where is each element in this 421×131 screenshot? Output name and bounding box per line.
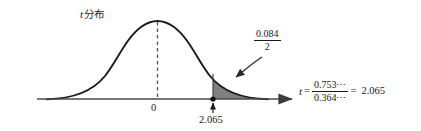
equation-equals-sign-2: = — [349, 86, 357, 97]
t-distribution-figure: t分布 0 2.065 0.084 2 t = 0.753⋯ 0.364⋯ = … — [0, 0, 421, 131]
distribution-label-text: 分布 — [84, 8, 104, 20]
equation-fraction: 0.753⋯ 0.364⋯ — [312, 80, 349, 103]
figure-canvas — [0, 0, 421, 131]
equation-equals-sign: = — [303, 86, 311, 97]
equation-denominator: 0.364⋯ — [312, 93, 349, 103]
equation-result: 2.065 — [357, 86, 385, 97]
callout-arrow-icon — [236, 57, 262, 77]
data-point-dot-icon — [210, 96, 215, 101]
axis-tick-label-critical: 2.065 — [199, 115, 223, 126]
tail-area-denominator: 2 — [254, 42, 281, 52]
axis-tick-label-zero: 0 — [151, 103, 156, 114]
equation-numerator: 0.753⋯ — [312, 80, 349, 90]
tail-area-numerator: 0.084 — [254, 29, 281, 39]
tail-area-callout: 0.084 2 — [254, 29, 281, 52]
t-statistic-equation: t = 0.753⋯ 0.364⋯ = 2.065 — [299, 80, 385, 103]
distribution-label: t分布 — [80, 9, 104, 20]
